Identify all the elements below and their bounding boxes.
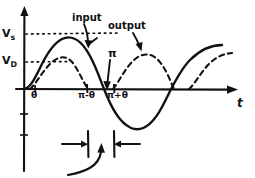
x-tick-label-pi-plus-theta: π+θ [107, 91, 128, 100]
output-curve-label: output [108, 21, 146, 31]
output-curve-hump-2 [113, 54, 174, 89]
y-axis-arrowhead [20, 6, 28, 16]
y-axis-vs-label-base: V [2, 27, 11, 40]
y-axis-vd-label: VD [2, 55, 17, 69]
x-tick-label-pi-minus-theta: π-θ [78, 91, 95, 100]
output-waveform [30, 53, 232, 89]
y-axis-vs-label: Vs [2, 28, 15, 42]
x-tick-label-theta: θ [31, 91, 37, 100]
dimension-arrow-left-head [81, 141, 88, 148]
x-axis-arrowhead [227, 85, 238, 93]
input-curve-path [24, 37, 222, 129]
waveform-figure: Vs VD t input output π θ π-θ π+θ [0, 0, 255, 178]
output-curve-hump-3 [189, 53, 232, 89]
dimension-callout-curve [68, 152, 101, 175]
y-axis-vs-label-sub: s [11, 33, 16, 42]
vd-level-dotted-line [26, 62, 70, 63]
output-leader-arrowhead [136, 42, 143, 52]
pi-marker-label: π [108, 48, 117, 59]
dimension-annotation-group [62, 131, 140, 175]
y-axis-vd-label-sub: D [11, 60, 18, 69]
y-axis-vd-label-base: V [2, 54, 11, 67]
vs-level-dotted-line [26, 33, 118, 34]
input-waveform [24, 37, 222, 129]
dimension-callout-arrowhead [97, 143, 105, 153]
x-axis-label: t [237, 97, 243, 109]
input-curve-label: input [72, 13, 102, 23]
